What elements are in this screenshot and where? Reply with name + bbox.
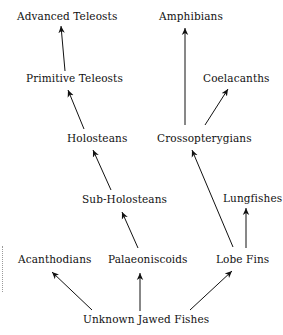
edge-subholo-holo <box>93 150 111 190</box>
node-lungfishes: Lungfishes <box>223 192 282 204</box>
node-palaeoniscoids: Palaeoniscoids <box>108 253 188 265</box>
fish-evolution-diagram: Advanced Teleosts Amphibians Primitive T… <box>0 0 283 335</box>
node-crossopterygians: Crossopterygians <box>157 132 252 144</box>
node-sub-holosteans: Sub-Holosteans <box>82 193 167 205</box>
edge-ujf-acanthodians <box>52 272 92 310</box>
node-amphibians: Amphibians <box>159 10 223 22</box>
edge-primtel-advtel <box>61 26 65 71</box>
node-lobe-fins: Lobe Fins <box>216 253 269 265</box>
node-unknown-jawed-fishes: Unknown Jawed Fishes <box>83 313 209 325</box>
node-primitive-teleosts: Primitive Teleosts <box>26 72 123 84</box>
edge-cross-coel <box>205 89 228 125</box>
edges-layer <box>0 0 283 335</box>
node-acanthodians: Acanthodians <box>18 253 91 265</box>
edge-ujf-lobefins <box>190 271 232 310</box>
node-advanced-teleosts: Advanced Teleosts <box>17 10 117 22</box>
node-coelacanths: Coelacanths <box>203 72 270 84</box>
edge-palaeo-subholo <box>122 212 138 248</box>
edge-holo-primtel <box>68 90 84 129</box>
node-holosteans: Holosteans <box>67 132 127 144</box>
